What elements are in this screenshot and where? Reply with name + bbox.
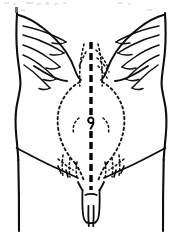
pubic-arc-right [100, 182, 105, 190]
rib-left-tip-5 [39, 88, 50, 90]
rib-right-tip-4 [126, 79, 139, 81]
torso-outline-left [16, 13, 21, 160]
viscera-oval-right [102, 82, 124, 163]
rib-right-tip-3 [122, 67, 136, 69]
viscera-inguinal-left-cross [58, 159, 73, 170]
torso-outline-right [162, 13, 167, 160]
rib-right-3 [122, 45, 159, 67]
rib-right-tip-5 [132, 88, 143, 90]
anatomical-figure: Anterior abdominal wall with midline inc… [0, 0, 182, 234]
rib-right-tip-2 [118, 53, 132, 55]
inguinal-ligament-group [17, 148, 166, 178]
thigh-outline-right [163, 160, 164, 231]
umbilicus-group [88, 117, 93, 128]
viscera-inguinal-right-1 [119, 155, 120, 176]
rib-left-tip-3 [46, 67, 60, 69]
rib-left-3 [23, 45, 60, 67]
umbilicus-icon [88, 117, 93, 128]
viscera-loop-left [73, 118, 79, 134]
viscera-oval-left [58, 82, 80, 163]
inguinal-tick-left-2 [66, 170, 68, 177]
viscera-inguinal-right-cross [109, 159, 124, 170]
rib-left-tip-2 [50, 53, 64, 55]
scrotal-crease [85, 194, 96, 195]
rib-left-tip-4 [43, 79, 56, 81]
viscera-inguinal-left-1 [62, 155, 63, 176]
inguinal-tick-right-2 [114, 170, 116, 177]
pubic-arc [78, 182, 83, 190]
thigh-outline-left [18, 160, 19, 231]
viscera-inguinal-left-3 [76, 162, 77, 178]
viscera-loop-right [103, 118, 109, 134]
viscera-inguinal-right-3 [105, 162, 106, 178]
anatomy-line-drawing [0, 0, 182, 234]
